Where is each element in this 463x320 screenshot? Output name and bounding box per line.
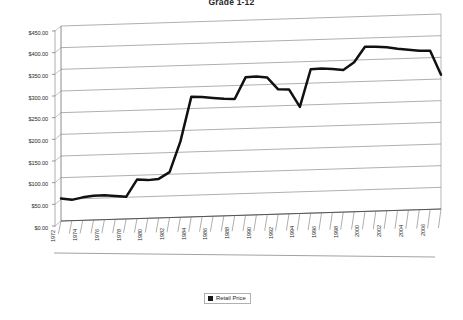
x-axis-tick-label: 1998 — [333, 226, 339, 238]
x-axis-tick-label: 1996 — [311, 226, 317, 238]
x-axis-tick-label: 1980 — [137, 228, 143, 240]
x-axis-tick-label: 1972 — [50, 230, 56, 242]
x-axis-tick-label: 1986 — [202, 228, 208, 240]
x-axis-tick-label: 1990 — [246, 227, 252, 239]
x-axis-tick-label: 1994 — [289, 226, 295, 238]
chart-legend: Retail Price — [204, 293, 251, 304]
x-axis-tick-label: 2000 — [354, 225, 360, 237]
x-axis-tick-label: 1978 — [116, 229, 122, 241]
x-axis-tick-label: 1992 — [268, 227, 274, 239]
x-axis-tick-label: 2004 — [398, 225, 404, 237]
x-axis-tick-label: 1988 — [224, 227, 230, 239]
legend-item-label: Retail Price — [216, 295, 246, 302]
x-axis-tick-label: 1974 — [72, 229, 78, 241]
x-axis-tick-labels: 1972197419761978198019821984198619881990… — [0, 0, 463, 320]
x-axis-tick-label: 2006 — [420, 224, 426, 236]
legend-swatch-icon — [208, 296, 213, 301]
x-axis-tick-label: 1984 — [181, 228, 187, 240]
chart-container: Grade 1-12 $450.00$400.00$350.00$300.00$… — [0, 0, 463, 320]
x-axis-tick-label: 1976 — [94, 229, 100, 241]
x-axis-tick-label: 2002 — [376, 225, 382, 237]
x-axis-tick-label: 1982 — [159, 228, 165, 240]
